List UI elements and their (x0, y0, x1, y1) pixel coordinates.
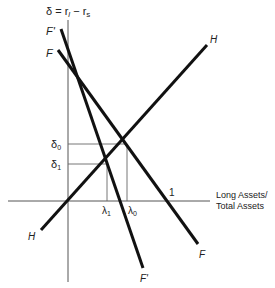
x-axis-label-line2: Total Assets (216, 201, 265, 211)
x-axis-label-line1: Long Assets/ (216, 190, 268, 200)
y-axis-label: δ = rl − rs (46, 5, 90, 19)
h-line (41, 45, 207, 230)
h-label-top: H (210, 34, 218, 45)
f-prime-label-bottom: F' (140, 273, 149, 284)
lambda1-label: λ1 (102, 205, 111, 217)
h-label-bottom: H (28, 231, 36, 242)
delta0-label: δ0 (51, 138, 61, 151)
tick-one-label: 1 (169, 187, 175, 198)
f-label-bottom: F (199, 249, 206, 260)
diagram-canvas: δ = rl − rs F' F H H F F' δ0 δ1 λ1 λ0 1 … (0, 0, 275, 288)
lambda0-label: λ0 (128, 205, 137, 217)
f-prime-label-top: F' (46, 25, 56, 37)
delta1-label: δ1 (51, 158, 61, 171)
f-label-top: F (46, 47, 54, 59)
